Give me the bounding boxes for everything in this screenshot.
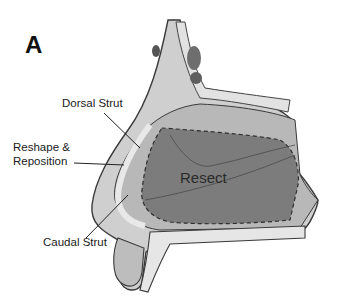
caudal-strut-label: Caudal Strut [43,236,107,249]
reshape-label-line1: Reshape & [13,141,70,154]
palate-bone [140,226,305,292]
sinus-cavity-upper [187,46,201,70]
sinus-cavity-lower [190,72,202,84]
panel-letter: A [25,31,42,59]
resect-label: Resect [180,169,227,186]
reshape-label-line2: Reposition [13,155,67,168]
dorsal-strut-label: Dorsal Strut [62,97,123,110]
nasion-bump [152,45,160,57]
nasal-septum-diagram: A Dorsal Strut Reshape & Reposition Caud… [0,0,350,297]
